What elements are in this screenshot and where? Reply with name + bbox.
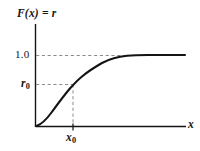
cdf-curve — [37, 55, 186, 126]
x-axis-label: x — [188, 119, 194, 131]
y-tick-label-r0-subscript: 0 — [26, 82, 30, 91]
y-tick-label-r0: r0 — [21, 78, 30, 92]
plot-canvas — [0, 0, 200, 151]
x-tick-label-x0: x0 — [66, 132, 76, 146]
y-tick-label-one: 1.0 — [15, 49, 29, 60]
x-tick-label-x0-subscript: 0 — [72, 136, 76, 145]
cdf-figure: F(x) = r x 1.0 r0 x0 — [0, 0, 200, 151]
y-axis-label: F(x) = r — [17, 8, 56, 20]
